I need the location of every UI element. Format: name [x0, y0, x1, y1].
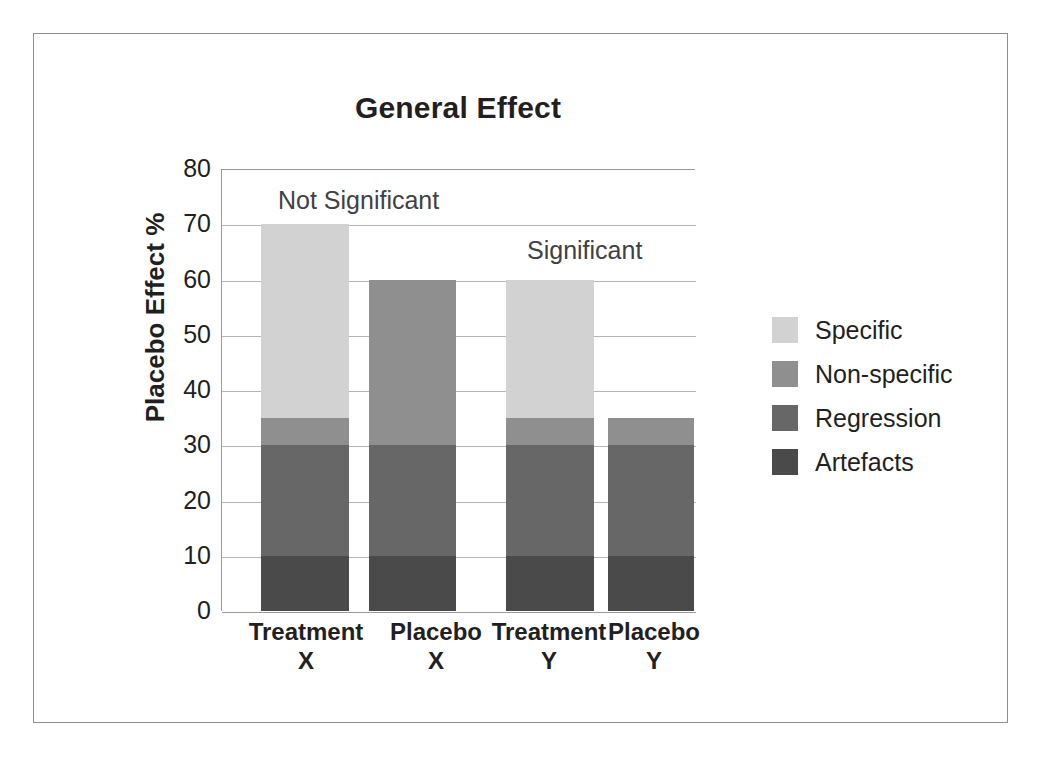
y-tick-30: 30: [141, 430, 211, 459]
bar-segment-non-specific: [506, 418, 594, 446]
legend: SpecificNon-specificRegressionArtefacts: [772, 308, 1002, 484]
bar-treatment-x: [261, 169, 349, 611]
legend-swatch-icon: [772, 361, 798, 387]
legend-swatch-icon: [772, 449, 798, 475]
y-tick-40: 40: [141, 375, 211, 404]
x-tick-placebo-y: PlaceboY: [559, 617, 749, 676]
bar-segment-specific: [506, 280, 594, 418]
y-tick-10: 10: [141, 541, 211, 570]
bar-segment-artefacts: [369, 556, 456, 611]
bar-segment-regression: [261, 445, 349, 556]
bar-segment-artefacts: [261, 556, 349, 611]
legend-swatch-icon: [772, 317, 798, 343]
bar-segment-specific: [261, 224, 349, 417]
bar-placebo-x: [369, 169, 456, 611]
gridline-0: [222, 612, 696, 613]
legend-item-regression: Regression: [772, 396, 1002, 440]
annotation-significant: Significant: [527, 236, 642, 265]
bar-segment-non-specific: [261, 418, 349, 446]
legend-label: Regression: [815, 404, 941, 433]
legend-label: Artefacts: [815, 448, 914, 477]
y-tick-0: 0: [141, 596, 211, 625]
bar-segment-regression: [608, 445, 694, 556]
legend-item-artefacts: Artefacts: [772, 440, 1002, 484]
bar-segment-non-specific: [608, 418, 694, 446]
y-tick-80: 80: [141, 154, 211, 183]
y-tick-70: 70: [141, 209, 211, 238]
y-axis-tick-labels: 80706050403020100: [133, 169, 211, 611]
x-tick-line-1: Placebo: [608, 618, 700, 645]
x-tick-line-2: Y: [559, 646, 749, 675]
bar-segment-artefacts: [506, 556, 594, 611]
bar-segment-regression: [506, 445, 594, 556]
bar-segment-artefacts: [608, 556, 694, 611]
y-tick-20: 20: [141, 485, 211, 514]
legend-item-specific: Specific: [772, 308, 1002, 352]
legend-swatch-icon: [772, 405, 798, 431]
plot-area: Not SignificantSignificant: [221, 169, 695, 611]
bar-segment-regression: [369, 445, 456, 556]
legend-label: Specific: [815, 316, 903, 345]
legend-label: Non-specific: [815, 360, 953, 389]
y-tick-50: 50: [141, 320, 211, 349]
legend-item-non-specific: Non-specific: [772, 352, 1002, 396]
chart-title: General Effect: [221, 91, 695, 125]
bar-segment-non-specific: [369, 280, 456, 446]
y-tick-60: 60: [141, 264, 211, 293]
annotation-not-significant: Not Significant: [278, 186, 439, 215]
x-axis-tick-labels: TreatmentXPlaceboXTreatmentYPlaceboY: [221, 617, 695, 697]
figure-canvas: General Effect Placebo Effect % 80706050…: [0, 0, 1044, 771]
